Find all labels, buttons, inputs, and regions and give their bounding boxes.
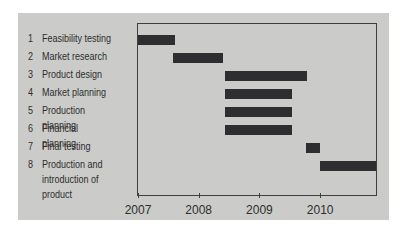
axis-tick	[138, 193, 139, 198]
task-number: 8	[28, 157, 42, 202]
task-number: 2	[28, 49, 42, 64]
x-tick-label: 2009	[246, 203, 273, 217]
task-row: 1Feasibility testing	[28, 31, 114, 46]
task-label: Product design	[42, 67, 114, 82]
gantt-bar	[138, 35, 175, 45]
task-number: 4	[28, 85, 42, 100]
gantt-bar	[225, 89, 292, 99]
x-tick-label: 2008	[185, 203, 212, 217]
gantt-bar	[225, 125, 292, 135]
gantt-bar	[306, 143, 321, 153]
figure-canvas: 1Feasibility testing2Market research3Pro…	[0, 0, 409, 235]
task-label: Feasibility testing	[42, 31, 114, 46]
task-row: 7Final testing	[28, 139, 114, 154]
task-label: Market research	[42, 49, 114, 64]
task-number: 7	[28, 139, 42, 154]
axis-tick	[320, 193, 321, 198]
x-tick-label: 2007	[125, 203, 152, 217]
task-label: Production and introduction of product	[42, 157, 114, 202]
task-number: 1	[28, 31, 42, 46]
axis-tick	[199, 193, 200, 198]
task-row: 8Production and introduction of product	[28, 157, 114, 202]
x-tick-label: 2010	[307, 203, 334, 217]
gantt-bar	[225, 107, 292, 117]
gantt-bar	[173, 53, 223, 63]
task-row: 2Market research	[28, 49, 114, 64]
task-label: Market planning	[42, 85, 114, 100]
gantt-bar	[320, 161, 376, 171]
task-row: 4Market planning	[28, 85, 114, 100]
task-label: Final testing	[42, 139, 114, 154]
gantt-chart-panel: 1Feasibility testing2Market research3Pro…	[18, 13, 389, 220]
task-row: 3Product design	[28, 67, 114, 82]
axis-tick	[259, 193, 260, 198]
task-number: 3	[28, 67, 42, 82]
plot-area	[137, 23, 377, 196]
gantt-bar	[225, 71, 307, 81]
